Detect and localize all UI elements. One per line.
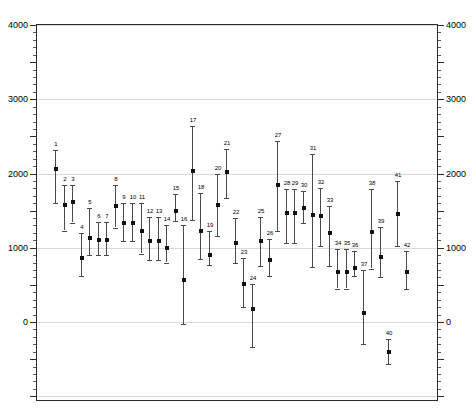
- error-bar-cap-lower: [352, 276, 357, 277]
- error-bar-cap-lower: [233, 263, 238, 264]
- error-bar-cap-lower: [241, 307, 246, 308]
- data-point-marker[interactable]: [379, 255, 383, 259]
- data-point-marker[interactable]: [259, 239, 263, 243]
- error-bar-cap-lower: [301, 223, 306, 224]
- data-point-label: 15: [168, 185, 184, 191]
- error-bar-cap-upper: [87, 208, 92, 209]
- error-bar: [380, 227, 381, 277]
- data-point-marker[interactable]: [251, 307, 255, 311]
- error-bar-cap-upper: [62, 185, 67, 186]
- data-point-marker[interactable]: [370, 230, 374, 234]
- data-point-label: 11: [134, 194, 150, 200]
- error-bar-cap-upper: [53, 150, 58, 151]
- error-bar-cap-lower: [310, 267, 315, 268]
- error-bar-cap-upper: [267, 239, 272, 240]
- error-bar-cap-lower: [344, 289, 349, 290]
- data-point-marker[interactable]: [268, 258, 272, 262]
- data-point-label: 37: [356, 261, 372, 267]
- data-point-marker[interactable]: [80, 256, 84, 260]
- error-bar-cap-upper: [369, 189, 374, 190]
- data-point-label: 23: [236, 249, 252, 255]
- data-point-marker[interactable]: [336, 270, 340, 274]
- data-point-label: 8: [108, 176, 124, 182]
- data-point-label: 31: [305, 145, 321, 151]
- data-point-marker[interactable]: [114, 204, 118, 208]
- data-point-marker[interactable]: [293, 211, 297, 215]
- data-point-marker[interactable]: [302, 206, 306, 210]
- error-bar-cap-upper: [130, 203, 135, 204]
- error-bar-cap-upper: [113, 185, 118, 186]
- data-point-label: 27: [270, 132, 286, 138]
- data-point-marker[interactable]: [405, 270, 409, 274]
- error-bar-cap-upper: [292, 189, 297, 190]
- error-bar: [183, 225, 184, 324]
- data-point-marker[interactable]: [345, 270, 349, 274]
- error-bar-cap-upper: [284, 189, 289, 190]
- error-bar-cap-upper: [96, 222, 101, 223]
- data-point-marker[interactable]: [311, 213, 315, 217]
- error-bar-cap-lower: [121, 241, 126, 242]
- data-point-marker[interactable]: [362, 311, 366, 315]
- data-point-marker[interactable]: [208, 253, 212, 257]
- error-bar: [81, 233, 82, 276]
- error-bar-cap-upper: [139, 203, 144, 204]
- data-point-marker[interactable]: [105, 238, 109, 242]
- error-bar-cap-lower: [404, 289, 409, 290]
- data-point-marker[interactable]: [174, 209, 178, 213]
- data-point-marker[interactable]: [285, 211, 289, 215]
- data-point-label: 16: [176, 216, 192, 222]
- data-point-marker[interactable]: [122, 221, 126, 225]
- data-point-label: 5: [82, 199, 98, 205]
- error-bar-cap-lower: [224, 198, 229, 199]
- data-point-label: 22: [228, 209, 244, 215]
- error-bar-cap-upper: [104, 222, 109, 223]
- data-point-marker[interactable]: [396, 212, 400, 216]
- error-bar-cap-upper: [147, 217, 152, 218]
- data-point-marker[interactable]: [216, 203, 220, 207]
- data-point-marker[interactable]: [63, 203, 67, 207]
- data-point-label: 38: [364, 180, 380, 186]
- data-point-marker[interactable]: [54, 167, 58, 171]
- error-bar: [89, 208, 90, 255]
- error-bar-cap-lower: [267, 276, 272, 277]
- error-bar-cap-upper: [335, 249, 340, 250]
- error-bar-cap-upper: [250, 284, 255, 285]
- error-bar-cap-lower: [318, 246, 323, 247]
- error-bar-cap-upper: [241, 258, 246, 259]
- error-bar-cap-lower: [335, 289, 340, 290]
- error-bar-cap-lower: [104, 255, 109, 256]
- data-point-marker[interactable]: [199, 229, 203, 233]
- data-point-marker[interactable]: [234, 241, 238, 245]
- data-point-marker[interactable]: [319, 214, 323, 218]
- data-point-label: 20: [210, 165, 226, 171]
- data-point-marker[interactable]: [88, 236, 92, 240]
- data-point-marker[interactable]: [182, 278, 186, 282]
- error-bar-cap-upper: [121, 203, 126, 204]
- data-point-label: 39: [373, 218, 389, 224]
- error-bar-cap-upper: [327, 206, 332, 207]
- error-bar-cap-upper: [275, 141, 280, 142]
- error-bar-cap-upper: [344, 249, 349, 250]
- data-point-marker[interactable]: [328, 231, 332, 235]
- data-point-marker[interactable]: [71, 200, 75, 204]
- error-bar-cap-lower: [250, 347, 255, 348]
- error-bar: [252, 284, 253, 347]
- data-point-marker[interactable]: [131, 221, 135, 225]
- data-point-label: 24: [245, 275, 261, 281]
- data-point-marker[interactable]: [140, 229, 144, 233]
- error-bar: [209, 231, 210, 265]
- data-point-marker[interactable]: [165, 246, 169, 250]
- error-bar: [166, 225, 167, 262]
- error-bar-cap-upper: [310, 154, 315, 155]
- data-point-marker[interactable]: [242, 282, 246, 286]
- error-bar-cap-upper: [386, 339, 391, 340]
- data-point-marker[interactable]: [97, 238, 101, 242]
- data-point-marker[interactable]: [157, 239, 161, 243]
- data-point-marker[interactable]: [387, 350, 391, 354]
- data-point-marker[interactable]: [191, 169, 195, 173]
- data-point-marker[interactable]: [225, 170, 229, 174]
- error-bar-cap-lower: [258, 266, 263, 267]
- data-point-marker[interactable]: [148, 239, 152, 243]
- data-point-label: 40: [381, 330, 397, 336]
- error-bar-cap-lower: [96, 255, 101, 256]
